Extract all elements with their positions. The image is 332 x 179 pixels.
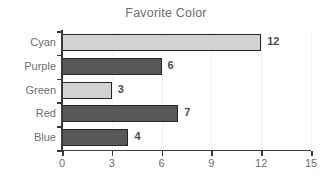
y-axis-label-red: Red xyxy=(0,107,56,119)
bar-row: 3 xyxy=(62,79,311,103)
x-axis-label-12: 12 xyxy=(246,157,276,169)
bar-blue[interactable] xyxy=(62,129,128,146)
x-axis-label-9: 9 xyxy=(196,157,226,169)
bar-row: 6 xyxy=(62,55,311,79)
x-axis-tick xyxy=(62,151,64,156)
y-axis-tick xyxy=(57,79,62,81)
x-axis-label-6: 6 xyxy=(147,157,177,169)
x-axis-label-3: 3 xyxy=(97,157,127,169)
x-axis-label-0: 0 xyxy=(47,157,77,169)
x-axis-label-15: 15 xyxy=(296,157,326,169)
grid-line xyxy=(311,31,312,150)
x-axis-tick xyxy=(311,151,313,156)
bar-value-purple: 6 xyxy=(168,59,174,71)
bar-chart: Favorite Color 126374 CyanPurpleGreenRed… xyxy=(0,0,332,179)
bar-value-blue: 4 xyxy=(134,130,140,142)
y-axis-line xyxy=(61,30,63,151)
bar-purple[interactable] xyxy=(62,58,162,75)
bar-value-green: 3 xyxy=(118,83,124,95)
y-axis-tick xyxy=(57,102,62,104)
x-axis-line xyxy=(61,150,311,152)
y-axis-tick xyxy=(57,126,62,128)
bar-row: 4 xyxy=(62,126,311,150)
y-axis-label-purple: Purple xyxy=(0,60,56,72)
x-axis-tick xyxy=(112,151,114,156)
y-axis-label-cyan: Cyan xyxy=(0,36,56,48)
x-axis-tick xyxy=(162,151,164,156)
y-axis-tick xyxy=(57,31,62,33)
bar-green[interactable] xyxy=(62,82,112,99)
x-axis-tick xyxy=(261,151,263,156)
bar-row: 12 xyxy=(62,31,311,55)
bar-cyan[interactable] xyxy=(62,34,261,51)
y-axis-label-blue: Blue xyxy=(0,131,56,143)
y-axis-label-green: Green xyxy=(0,84,56,96)
bar-red[interactable] xyxy=(62,105,178,122)
x-axis-tick xyxy=(211,151,213,156)
bar-value-red: 7 xyxy=(184,106,190,118)
chart-title: Favorite Color xyxy=(0,6,332,20)
bar-row: 7 xyxy=(62,102,311,126)
y-axis-tick xyxy=(57,55,62,57)
plot-area: 126374 xyxy=(62,31,311,150)
bar-value-cyan: 12 xyxy=(267,35,279,47)
